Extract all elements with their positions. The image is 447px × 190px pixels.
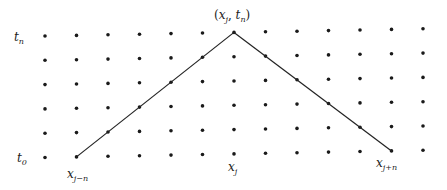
grid-point xyxy=(264,103,268,107)
grid-point xyxy=(75,82,79,86)
label-t-0: t0 xyxy=(17,151,27,167)
grid-point xyxy=(43,131,47,135)
grid-point xyxy=(201,80,205,84)
grid-point xyxy=(43,156,47,160)
label-x-j-minus-n: xj−n xyxy=(67,167,88,183)
grid-point xyxy=(43,34,47,38)
grid-point xyxy=(138,154,142,158)
grid-point xyxy=(169,105,173,109)
grid-point xyxy=(390,52,394,56)
grid-point xyxy=(264,127,268,131)
diagram-canvas: tn t0 xj−n xj xj+n (xj, tn) xyxy=(0,0,447,190)
grid-point xyxy=(138,57,142,61)
grid-point xyxy=(169,56,173,60)
grid-point xyxy=(295,29,299,33)
grid-point xyxy=(421,100,425,104)
grid-point xyxy=(106,106,110,110)
grid-point xyxy=(138,81,142,85)
grid-point xyxy=(421,149,425,153)
grid-point xyxy=(327,29,331,33)
grid-point xyxy=(327,53,331,57)
right-characteristic-line xyxy=(234,32,392,150)
characteristic-lines xyxy=(77,32,392,156)
grid-diagram: tn t0 xj−n xj xj+n (xj, tn) xyxy=(0,0,447,190)
grid-point xyxy=(390,28,394,32)
grid-point xyxy=(43,107,47,111)
grid-point xyxy=(358,77,362,81)
grid-point xyxy=(201,128,205,132)
grid-point xyxy=(232,104,236,108)
label-x-j-plus-n: xj+n xyxy=(376,156,397,172)
grid-point xyxy=(138,32,142,36)
grid-point xyxy=(232,128,236,132)
grid-point xyxy=(106,33,110,37)
label-apex: (xj, tn) xyxy=(214,8,250,24)
grid-point xyxy=(169,129,173,133)
grid-point xyxy=(295,127,299,131)
grid-point xyxy=(75,107,79,111)
grid-point xyxy=(75,34,79,38)
grid-point xyxy=(390,76,394,80)
grid-point xyxy=(264,79,268,83)
grid-point xyxy=(421,124,425,128)
grid-point xyxy=(106,57,110,61)
grid-point xyxy=(327,126,331,130)
grid-dots xyxy=(43,27,425,159)
grid-point xyxy=(358,28,362,32)
grid-point xyxy=(201,104,205,108)
grid-point xyxy=(327,150,331,154)
label-x-j: xj xyxy=(228,160,238,176)
grid-point xyxy=(295,151,299,155)
grid-point xyxy=(358,101,362,105)
grid-point xyxy=(169,32,173,36)
grid-point xyxy=(327,77,331,81)
grid-point xyxy=(106,155,110,159)
grid-point xyxy=(390,125,394,129)
grid-point xyxy=(106,82,110,86)
grid-point xyxy=(358,150,362,154)
left-characteristic-line xyxy=(77,32,235,156)
grid-point xyxy=(295,102,299,106)
grid-point xyxy=(295,54,299,58)
label-t-n: tn xyxy=(14,30,24,46)
grid-point xyxy=(232,79,236,83)
grid-point xyxy=(201,31,205,35)
grid-point xyxy=(421,76,425,80)
grid-point xyxy=(138,130,142,134)
grid-point xyxy=(264,152,268,156)
grid-point xyxy=(232,55,236,59)
grid-point xyxy=(358,53,362,57)
grid-point xyxy=(201,153,205,157)
grid-point xyxy=(43,83,47,87)
grid-point xyxy=(43,59,47,63)
grid-point xyxy=(75,58,79,62)
grid-point xyxy=(232,152,236,156)
grid-point xyxy=(264,30,268,34)
grid-point xyxy=(75,131,79,135)
grid-point xyxy=(390,101,394,105)
grid-point xyxy=(169,153,173,157)
grid-point xyxy=(421,27,425,31)
grid-point xyxy=(421,51,425,55)
